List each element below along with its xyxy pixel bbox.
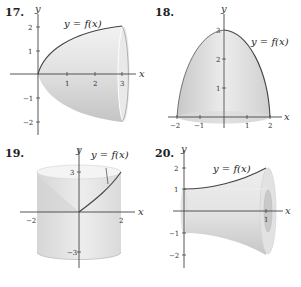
figure-18: 18. x y −2 −1 1 2 3 2 1 y = f(x) <box>155 3 290 130</box>
y-tick-label: −1 <box>169 230 179 238</box>
solid-body <box>184 168 266 255</box>
function-label: y = f(x) <box>250 36 289 47</box>
y-tick-label: −3 <box>67 249 77 257</box>
y-tick-label: −2 <box>23 119 33 127</box>
x-tick-label: −2 <box>170 122 180 130</box>
y-tick-label: 1 <box>174 186 178 194</box>
y-tick-label: −1 <box>23 95 33 103</box>
figure-number: 20. <box>155 147 174 160</box>
x-tick-label: 2 <box>268 122 272 130</box>
y-tick-label: 1 <box>216 85 220 93</box>
y-tick-label: 1 <box>28 48 32 56</box>
function-label: y = f(x) <box>90 149 129 160</box>
figure-number: 17. <box>5 6 24 19</box>
function-label: y = f(x) <box>63 18 102 29</box>
figure-20: 20. x y 1 2 1 −1 −2 y = f(x) <box>155 143 291 268</box>
figure-number: 18. <box>155 6 174 19</box>
x-axis-label: x <box>138 206 144 217</box>
y-tick-label: −2 <box>169 252 179 260</box>
y-tick-label: 2 <box>28 24 32 32</box>
x-tick-label: −2 <box>26 217 36 225</box>
x-tick-label: 2 <box>119 217 123 225</box>
x-tick-label: 1 <box>65 80 69 88</box>
x-tick-label: 3 <box>120 80 124 88</box>
y-axis-label: y <box>75 144 82 155</box>
y-tick-label: 3 <box>70 169 74 177</box>
x-axis-label: x <box>284 111 290 122</box>
x-axis-label: x <box>285 205 291 216</box>
y-tick-label: 3 <box>216 27 220 35</box>
x-tick-label: −1 <box>194 122 204 130</box>
function-label: y = f(x) <box>212 163 251 174</box>
x-tick-label: 1 <box>245 122 249 130</box>
y-tick-label: 2 <box>174 165 178 173</box>
figure-grid: 17. x y 1 2 3 2 1 −1 −2 y = f(x) 18. <box>0 0 301 287</box>
figure-number: 19. <box>5 147 24 160</box>
y-axis-label: y <box>34 3 41 14</box>
figure-19: 19. x y −2 2 3 −3 y = f(x) <box>5 144 144 268</box>
y-tick-label: 2 <box>216 56 220 64</box>
x-tick-label: 2 <box>93 80 97 88</box>
figure-17: 17. x y 1 2 3 2 1 −1 −2 y = f(x) <box>5 3 145 135</box>
y-axis-label: y <box>180 143 187 154</box>
x-tick-label: 1 <box>264 216 268 224</box>
y-axis-label: y <box>220 3 227 14</box>
x-axis-label: x <box>139 68 145 79</box>
